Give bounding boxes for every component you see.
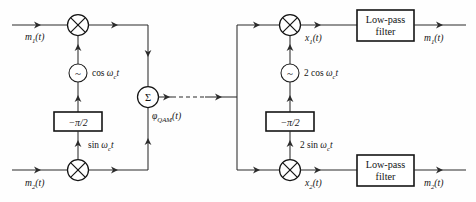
wire-osc-to-upper-demod-mult (287, 36, 294, 65)
wire-m1-to-multiplier (12, 22, 67, 29)
multiplier-mod-upper (68, 15, 89, 36)
sin-carrier-label: sin ωct (88, 140, 114, 152)
phase-shifter-mod: −π/2 (54, 112, 102, 131)
phase-shifter-demod-label: −π/2 (280, 117, 299, 128)
wire-phaseshift-to-lower-mult-mod (75, 131, 82, 160)
wire-osc-to-upper-mult (75, 36, 82, 65)
phi-qam-label: φQAM(t) (152, 110, 181, 123)
cos-carrier-label: cos ωct (92, 68, 120, 80)
diagram-canvas: m1(t) ~ cos ωct −π (0, 0, 476, 202)
low-pass-filter-upper: Low-pass filter (357, 10, 414, 41)
wire-x1-to-lpf (301, 22, 358, 29)
summer-node: Σ (138, 87, 159, 108)
m2-output-label: m2(t) (424, 177, 443, 190)
wire-osc-to-phaseshift-mod (75, 82, 82, 112)
channel-dashed-link (159, 94, 238, 101)
m1-output-label: m1(t) (424, 32, 443, 45)
lpf-lower-line2: filter (376, 171, 396, 182)
two-cos-carrier-label: 2 cos ωct (304, 68, 339, 80)
wire-phaseshift-to-lower-mult-demod (287, 131, 294, 160)
wire-x2-to-lpf (301, 167, 358, 174)
sigma-icon: Σ (145, 92, 151, 103)
two-sin-carrier-label: 2 sin ωct (300, 140, 333, 152)
phase-shifter-demod: −π/2 (266, 112, 314, 131)
multiplier-demod-upper (280, 15, 301, 36)
wire-lpf-upper-output (414, 22, 466, 29)
x1-signal-label: x1(t) (304, 32, 322, 45)
wire-lpf-lower-output (414, 167, 466, 174)
wire-osc-to-phaseshift-demod (287, 82, 294, 112)
m1-input-label: m1(t) (25, 31, 44, 44)
oscillator-tilde-icon: ~ (75, 67, 81, 79)
lpf-upper-line1: Low-pass (366, 14, 406, 25)
x2-signal-label: x2(t) (304, 177, 322, 190)
m2-input-label: m2(t) (25, 177, 44, 190)
oscillator-tilde-icon-demod: ~ (287, 67, 293, 79)
oscillator-cos-mod: ~ (69, 64, 87, 82)
lpf-upper-line2: filter (376, 26, 396, 37)
phase-shifter-mod-label: −π/2 (68, 117, 87, 128)
oscillator-cos-demod: ~ (281, 64, 299, 82)
wire-trunk-to-lower-demod-mult (237, 167, 280, 174)
wire-trunk-to-upper-demod-mult (237, 22, 280, 29)
lpf-lower-line1: Low-pass (366, 159, 406, 170)
qam-block-diagram: m1(t) ~ cos ωct −π (0, 0, 476, 202)
multiplier-demod-lower (280, 160, 301, 181)
wire-m2-to-multiplier (12, 167, 67, 174)
multiplier-mod-lower (68, 160, 89, 181)
low-pass-filter-lower: Low-pass filter (357, 155, 414, 186)
